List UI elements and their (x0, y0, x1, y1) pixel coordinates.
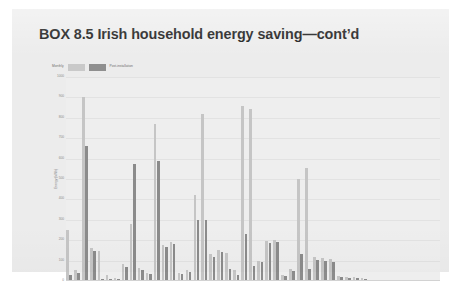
bar (133, 164, 136, 281)
bar (261, 262, 264, 281)
bar-group (313, 77, 319, 281)
y-tick-label: 700 (59, 137, 64, 140)
bar-group (273, 77, 279, 281)
bar-group (146, 77, 152, 281)
bar-group (305, 77, 311, 281)
bar-group (209, 77, 215, 281)
bar (130, 224, 133, 281)
bar-group (201, 77, 207, 281)
bar (170, 242, 173, 281)
bar-group (170, 77, 176, 281)
bar-group (297, 77, 303, 281)
bar-group (106, 77, 112, 281)
bar (217, 250, 220, 281)
bar (197, 220, 200, 281)
y-tick-label: 900 (59, 96, 64, 99)
x-axis-line (66, 280, 440, 281)
bar (165, 247, 168, 281)
bar (209, 254, 212, 281)
bar-group (98, 77, 104, 281)
bar-group (194, 77, 200, 281)
y-tick-label: 200 (59, 239, 64, 242)
bar (253, 266, 256, 281)
bar (213, 257, 216, 281)
bar-group (74, 77, 80, 281)
bar-group (233, 77, 239, 281)
bar (316, 260, 319, 281)
y-tick-label: 100 (59, 259, 64, 262)
bar (332, 262, 335, 281)
bar (324, 261, 327, 281)
bar-group (265, 77, 271, 281)
bar (194, 195, 197, 281)
bar-group (130, 77, 136, 281)
bar (321, 258, 324, 281)
bar (221, 252, 224, 281)
bar (157, 161, 160, 281)
bar (329, 259, 332, 281)
bar-group (321, 77, 327, 281)
bar-group (217, 77, 223, 281)
bar (225, 253, 228, 281)
bar (305, 168, 308, 281)
bar-group (337, 77, 343, 281)
y-tick-label: 400 (59, 198, 64, 201)
bar (297, 179, 300, 281)
bar (173, 244, 176, 281)
bar-group (114, 77, 120, 281)
bar (269, 243, 272, 281)
bar (313, 257, 316, 281)
y-tick-label: 500 (59, 177, 64, 180)
bar-group (353, 77, 359, 281)
bar-group (329, 77, 335, 281)
bar (241, 106, 244, 281)
bar-group (154, 77, 160, 281)
bar (257, 261, 260, 281)
bar (93, 251, 96, 281)
legend-swatch-post-installation (89, 64, 106, 71)
bar-groups (66, 77, 440, 281)
y-tick-label: 800 (59, 116, 64, 119)
bar-group (249, 77, 255, 281)
y-tick-label: 1000 (57, 75, 64, 78)
bar (98, 251, 101, 281)
bar-group (289, 77, 295, 281)
y-axis-label: Energy (kWh) (55, 169, 58, 189)
bar (138, 268, 141, 281)
bar (162, 245, 165, 281)
bar-group (345, 77, 351, 281)
bar (66, 230, 69, 281)
bar (90, 248, 93, 281)
bar-group (66, 77, 72, 281)
y-tick-label: 600 (59, 157, 64, 160)
bar (276, 242, 279, 281)
legend-label-post-installation: Post-installation (110, 65, 133, 68)
plot-area: 01002003004005006007008009001000 Energy … (66, 77, 440, 281)
bar (201, 114, 204, 281)
legend-label-monthly: Monthly (52, 65, 64, 68)
bar-group (241, 77, 247, 281)
legend-swatch-monthly (68, 64, 85, 71)
bar-group (162, 77, 168, 281)
bar-group (361, 77, 367, 281)
box-panel: BOX 8.5 Irish household energy saving—co… (12, 9, 449, 272)
bar (273, 240, 276, 281)
bar-group (138, 77, 144, 281)
bar-group (178, 77, 184, 281)
bar-group (90, 77, 96, 281)
y-tick-label: 300 (59, 218, 64, 221)
bar (205, 220, 208, 281)
bar-group (225, 77, 231, 281)
bar (249, 109, 252, 281)
bar-chart: Monthly Post-installation 01002003004005… (42, 59, 442, 281)
page-title: BOX 8.5 Irish household energy saving—co… (39, 26, 359, 42)
bar-group (186, 77, 192, 281)
bar (85, 146, 88, 281)
bar (245, 234, 248, 281)
bar (265, 241, 268, 281)
bar (122, 264, 125, 281)
bar-group (122, 77, 128, 281)
y-tick-label: 0 (62, 279, 64, 282)
bar-group (82, 77, 88, 281)
